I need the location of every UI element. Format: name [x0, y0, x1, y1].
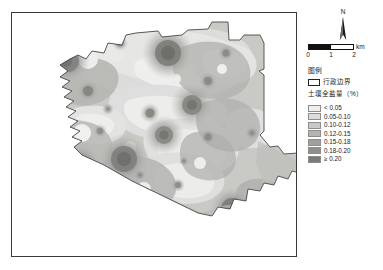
legend-class-swatch	[308, 139, 321, 146]
map-frame	[11, 12, 297, 257]
legend-class-swatch	[308, 156, 321, 163]
legend-title: 图例	[308, 66, 382, 76]
legend-class-swatch	[308, 113, 321, 120]
map-page: N km 0 1 2 图例 行政边界	[0, 0, 383, 270]
legend: 图例 行政边界 土壤全盐量（%） < 0.050.05-0.100.10-0.1…	[308, 66, 382, 163]
legend-class-row: 0.12-0.15	[308, 130, 382, 138]
legend-class-swatch	[308, 105, 321, 112]
north-arrow-icon: N	[332, 8, 354, 42]
legend-class-swatch	[308, 147, 321, 154]
legend-class-row: 0.10-0.12	[308, 121, 382, 129]
legend-class-row: 0.05-0.10	[308, 113, 382, 121]
scale-seg-1	[331, 45, 353, 49]
legend-subtitle: 土壤全盐量（%）	[308, 89, 382, 98]
legend-boundary-entry: 行政边界	[308, 78, 382, 86]
legend-class-label: < 0.05	[324, 104, 342, 112]
legend-class-row: ≥ 0.20	[308, 155, 382, 163]
legend-class-label: 0.15-0.18	[324, 138, 351, 146]
interpolated-surface	[12, 13, 296, 256]
scale-tick-1: 1	[329, 50, 333, 59]
legend-class-swatch	[308, 130, 321, 137]
scale-bar-ticks: 0 1 2	[308, 50, 354, 60]
scale-tick-2: 2	[352, 50, 356, 59]
legend-class-swatch	[308, 122, 321, 129]
scale-seg-0	[309, 45, 331, 49]
legend-boundary-swatch	[308, 79, 320, 86]
map-marginalia: N km 0 1 2 图例 行政边界	[306, 8, 382, 266]
legend-class-label: 0.18-0.20	[324, 147, 351, 155]
north-arrow-label: N	[332, 8, 354, 15]
legend-class-label: ≥ 0.20	[324, 155, 341, 163]
scale-bar: km 0 1 2	[308, 44, 372, 64]
legend-class-row: 0.18-0.20	[308, 147, 382, 155]
legend-class-label: 0.12-0.15	[324, 130, 351, 138]
legend-class-list: < 0.050.05-0.100.10-0.120.12-0.150.15-0.…	[308, 104, 382, 163]
map-canvas	[12, 13, 296, 256]
legend-class-label: 0.10-0.12	[324, 121, 351, 129]
legend-class-label: 0.05-0.10	[324, 113, 351, 121]
scale-bar-unit: km	[356, 43, 365, 51]
legend-class-row: 0.15-0.18	[308, 138, 382, 146]
legend-boundary-label: 行政边界	[323, 78, 351, 86]
scale-tick-0: 0	[306, 50, 310, 59]
legend-class-row: < 0.05	[308, 104, 382, 112]
